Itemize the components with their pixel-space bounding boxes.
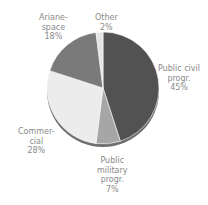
pie-slices <box>47 32 159 144</box>
label-other: Other 2% <box>95 13 118 32</box>
label-public-civil: Public civil progr. 45% <box>158 64 200 93</box>
label-public-military: Public military progr. 7% <box>97 156 128 194</box>
label-arianespace: Ariane- space 18% <box>39 13 68 42</box>
label-commercial: Commer- cial 28% <box>18 127 55 156</box>
